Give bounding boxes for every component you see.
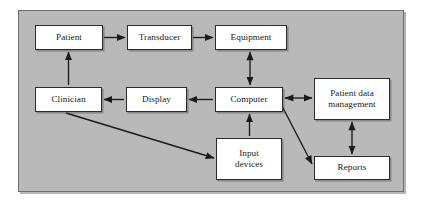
diagram-canvas: Patient Transducer Equipment Clinician D… (0, 0, 421, 205)
node-input-devices[interactable]: Input devices (216, 138, 282, 180)
node-patient[interactable]: Patient (35, 25, 103, 50)
node-input-devices-label-line1: Input (233, 148, 265, 160)
node-computer-label: Computer (228, 94, 269, 106)
node-reports[interactable]: Reports (314, 156, 390, 180)
node-display[interactable]: Display (126, 87, 187, 112)
node-equipment[interactable]: Equipment (215, 25, 287, 50)
node-patient-label: Patient (54, 32, 84, 44)
node-computer[interactable]: Computer (215, 87, 283, 112)
node-patient-data-management-label-line1: Patient data (326, 88, 377, 100)
node-clinician[interactable]: Clinician (35, 87, 102, 112)
node-equipment-label: Equipment (229, 32, 274, 44)
node-transducer[interactable]: Transducer (127, 25, 192, 50)
node-display-label: Display (140, 94, 173, 106)
node-transducer-label: Transducer (137, 32, 183, 44)
node-input-devices-label-line2: devices (233, 159, 265, 171)
node-patient-data-management-label-line2: management (326, 99, 377, 111)
node-clinician-label: Clinician (49, 94, 87, 106)
node-patient-data-management[interactable]: Patient data management (314, 78, 390, 120)
node-patient-data-management-text: Patient data management (326, 88, 377, 111)
node-input-devices-text: Input devices (233, 148, 265, 171)
node-reports-label: Reports (336, 162, 369, 174)
